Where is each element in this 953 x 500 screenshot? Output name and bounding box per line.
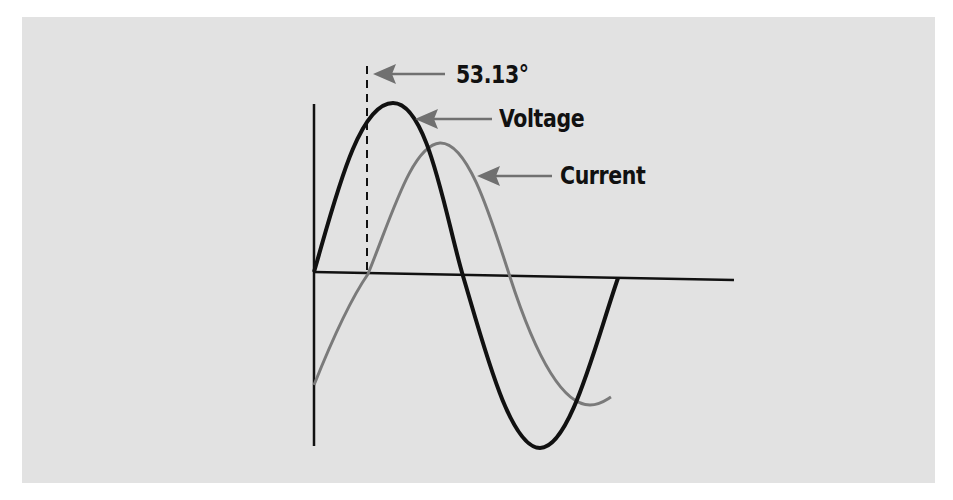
angle-arrow [373, 64, 445, 84]
voltage-arrow [415, 109, 492, 129]
current-label: Current [560, 161, 645, 190]
voltage-label: Voltage [499, 104, 584, 133]
current-arrow [477, 166, 552, 186]
phase-angle-label: 53.13° [456, 60, 529, 89]
x-axis [314, 272, 734, 280]
